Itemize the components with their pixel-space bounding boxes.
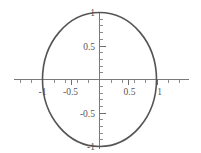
x-label-neg-half: -0.5 — [63, 87, 78, 97]
y-label-neg-one: -1 — [87, 142, 95, 152]
x-label-pos-one: 1 — [157, 87, 162, 97]
x-label-pos-half: 0.5 — [124, 87, 136, 97]
x-label-neg-one: -1 — [39, 87, 47, 97]
unit-circle-plot: -1 -0.5 0.5 1 1 0.5 -0.5 -1 — [0, 0, 201, 153]
y-label-pos-one: 1 — [90, 8, 95, 18]
plot-canvas: -1 -0.5 0.5 1 1 0.5 -0.5 -1 — [0, 0, 201, 153]
y-label-pos-half: 0.5 — [83, 42, 95, 52]
y-label-neg-half: -0.5 — [80, 109, 95, 119]
